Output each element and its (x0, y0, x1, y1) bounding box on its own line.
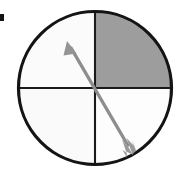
quadrant-circle-diagram (0, 0, 186, 174)
figure-root: A black-outlined circle divided into fou… (0, 0, 186, 174)
left-margin-tick (0, 14, 4, 21)
